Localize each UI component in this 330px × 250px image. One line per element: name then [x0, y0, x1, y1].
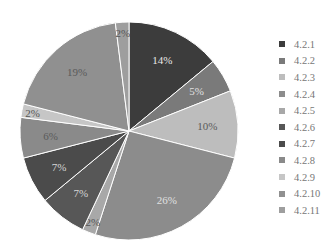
- slice-label: 19%: [67, 66, 87, 78]
- slice-label: 14%: [152, 54, 172, 66]
- legend-item: 4.2.9: [279, 169, 320, 186]
- legend-label: 4.2.1: [294, 39, 315, 50]
- legend-item: 4.2.3: [279, 69, 320, 86]
- legend-label: 4.2.3: [294, 72, 315, 83]
- legend-item: 4.2.8: [279, 152, 320, 169]
- legend-swatch: [279, 124, 285, 130]
- slice-label: 26%: [157, 194, 177, 206]
- legend-swatch: [279, 191, 285, 197]
- slice-label: 7%: [52, 161, 67, 173]
- legend-swatch: [279, 141, 285, 147]
- legend-swatch: [279, 108, 285, 114]
- legend: 4.2.14.2.24.2.34.2.44.2.54.2.64.2.74.2.8…: [279, 36, 320, 219]
- slice-label: 5%: [189, 85, 204, 97]
- slice-label: 2%: [116, 27, 131, 39]
- legend-swatch: [279, 157, 285, 163]
- legend-item: 4.2.7: [279, 136, 320, 153]
- slice-label: 2%: [25, 107, 40, 119]
- slice-label: 10%: [197, 120, 217, 132]
- legend-item: 4.2.1: [279, 36, 320, 53]
- legend-swatch: [279, 41, 285, 47]
- legend-item: 4.2.10: [279, 185, 320, 202]
- legend-label: 4.2.4: [294, 89, 315, 100]
- legend-item: 4.2.4: [279, 86, 320, 103]
- pie-chart: 14%5%10%26%2%7%7%6%2%19%2%: [0, 0, 250, 250]
- legend-label: 4.2.10: [294, 188, 320, 199]
- legend-label: 4.2.11: [294, 205, 320, 216]
- legend-swatch: [279, 91, 285, 97]
- legend-label: 4.2.2: [294, 55, 315, 66]
- legend-label: 4.2.7: [294, 138, 315, 149]
- legend-swatch: [279, 74, 285, 80]
- legend-label: 4.2.8: [294, 155, 315, 166]
- legend-swatch: [279, 174, 285, 180]
- legend-item: 4.2.2: [279, 53, 320, 70]
- legend-label: 4.2.9: [294, 172, 315, 183]
- legend-item: 4.2.11: [279, 202, 320, 219]
- slice-label: 7%: [74, 187, 89, 199]
- legend-swatch: [279, 58, 285, 64]
- legend-swatch: [279, 207, 285, 213]
- legend-label: 4.2.6: [294, 122, 315, 133]
- legend-label: 4.2.5: [294, 105, 315, 116]
- slice-label: 6%: [43, 130, 58, 142]
- legend-item: 4.2.5: [279, 102, 320, 119]
- legend-item: 4.2.6: [279, 119, 320, 136]
